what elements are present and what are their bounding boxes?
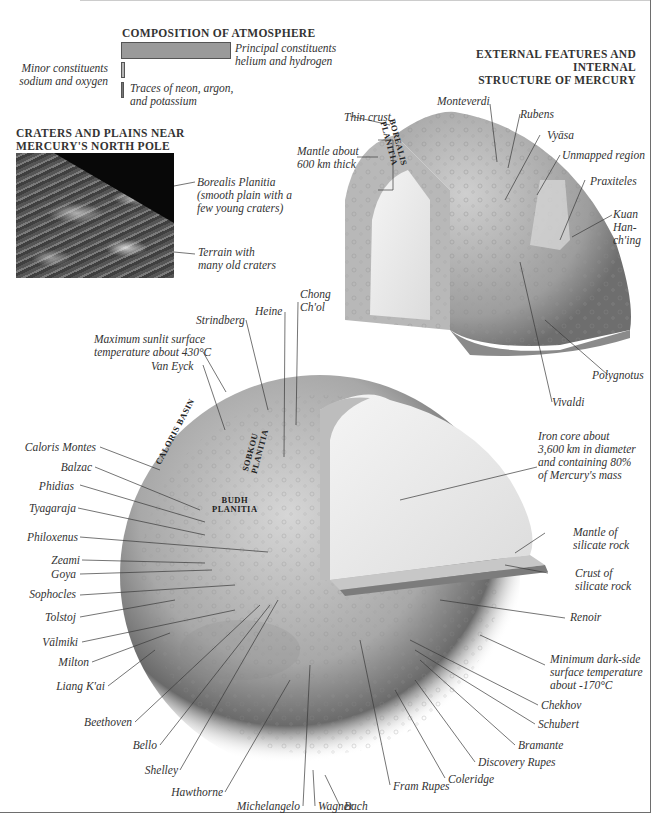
label-monteverdi: Monteverdi	[437, 95, 490, 108]
label-shelley: Shelley	[0, 764, 178, 777]
label-min-temperature: Minimum dark-side surface temperature ab…	[550, 653, 643, 692]
label-milton: Milton	[0, 656, 89, 669]
label-beethoven: Beethoven	[0, 716, 132, 729]
label-max-temperature: Maximum sunlit surface temperature about…	[94, 333, 211, 359]
label-strindberg: Strindberg	[196, 314, 245, 327]
label-discovery-rupes: Discovery Rupes	[478, 756, 556, 769]
label-sophocles: Sophocles	[0, 588, 76, 601]
label-thin-crust: Thin crust	[344, 111, 391, 124]
label-bello: Bello	[0, 739, 157, 752]
label-goya: Goya	[0, 568, 76, 581]
label-mantle-silicate: Mantle of silicate rock	[573, 526, 629, 552]
label-schubert: Schubert	[538, 718, 579, 731]
label-valmiki: Vālmiki	[0, 636, 78, 649]
label-philoxenus: Philoxenus	[0, 531, 78, 544]
big-cutaway-globe	[120, 375, 563, 775]
label-coleridge: Coleridge	[448, 773, 494, 786]
label-vyasa: Vyāsa	[547, 129, 574, 142]
label-polygnotus: Polygnotus	[592, 369, 644, 382]
label-heine: Heine	[255, 305, 282, 318]
label-fram-rupes: Fram Rupes	[393, 780, 450, 793]
label-rubens: Rubens	[520, 108, 554, 121]
label-iron-core: Iron core about 3,600 km in diameter and…	[538, 430, 636, 482]
label-crust-silicate: Crust of silicate rock	[575, 567, 631, 593]
label-phidias: Phidias	[0, 480, 74, 493]
label-bramante: Bramante	[518, 739, 563, 752]
label-balzac: Balzac	[0, 461, 92, 474]
label-michelangelo: Michelangelo	[0, 800, 300, 813]
label-unmapped-region: Unmapped region	[562, 149, 645, 162]
label-mantle-600km: Mantle about 600 km thick	[297, 145, 359, 171]
label-hawthorne: Hawthorne	[0, 786, 223, 799]
label-chekhov: Chekhov	[541, 699, 581, 712]
label-kuan-han-ching: Kuan Han- ch'ing	[613, 208, 641, 247]
label-caloris-montes: Caloris Montes	[0, 441, 96, 454]
label-zeami: Zeami	[0, 554, 80, 567]
label-vivaldi: Vivaldi	[552, 396, 584, 409]
label-bach: Bach	[344, 800, 368, 813]
label-renoir: Renoir	[570, 611, 601, 624]
label-chong-chol: Chong Ch'ol	[300, 288, 331, 314]
label-praxiteles: Praxiteles	[590, 175, 637, 188]
label-tolstoj: Tolstoj	[0, 611, 76, 624]
label-liang-kai: Liang K'ai	[0, 680, 105, 693]
budh-planitia-overlay: BUDH PLANITIA	[212, 496, 258, 514]
label-tyagaraja: Tyagaraja	[0, 502, 76, 515]
label-van-eyck: Van Eyck	[151, 360, 193, 373]
